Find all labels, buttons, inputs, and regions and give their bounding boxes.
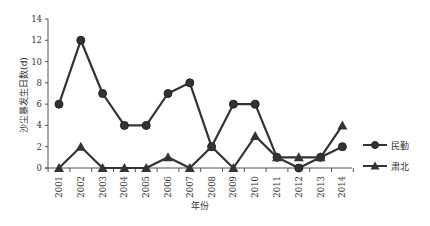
x-tick-label: 2008 (207, 176, 217, 198)
circle-marker (99, 90, 107, 98)
x-tick-label: 2005 (141, 176, 151, 198)
circle-marker (295, 164, 303, 172)
legend-label: 民勤 (391, 140, 409, 151)
circle-marker (338, 143, 346, 151)
triangle-marker (250, 131, 260, 140)
x-tick-label: 2014 (337, 176, 347, 198)
circle-marker-icon (372, 142, 379, 149)
y-tick-label: 4 (37, 120, 42, 130)
x-tick-label: 2006 (163, 176, 173, 198)
y-tick-label: 6 (37, 99, 42, 109)
x-tick-label: 2001 (54, 176, 64, 198)
line-chart: 02468101214 2001200220032004200520062007… (0, 0, 430, 226)
triangle-marker (337, 120, 347, 129)
y-tick-label: 12 (31, 35, 42, 45)
y-tick-label: 10 (31, 57, 42, 67)
y-tick-label: 2 (37, 142, 42, 152)
series-layer (54, 36, 347, 172)
series-line (59, 125, 342, 168)
series-subei (54, 120, 347, 172)
triangle-marker (163, 152, 173, 161)
x-tick-label: 2012 (294, 176, 304, 198)
y-tick-label: 14 (31, 14, 42, 24)
x-tick-label: 2003 (98, 176, 108, 198)
y-tick-label: 0 (37, 163, 42, 173)
y-tick-label: 8 (37, 78, 42, 88)
x-tick-label: 2002 (76, 176, 86, 198)
circle-marker (77, 36, 85, 44)
circle-marker (55, 100, 63, 108)
circle-marker (142, 121, 150, 129)
x-axis: 2001200220032004200520062007200820092010… (45, 168, 353, 198)
circle-marker (164, 90, 172, 98)
x-axis-title: 年份 (191, 200, 209, 211)
legend-item: 肃北 (363, 161, 409, 172)
triangle-marker (76, 142, 86, 151)
circle-marker (186, 79, 194, 87)
x-tick-label: 2007 (185, 176, 195, 198)
legend: 民勤肃北 (363, 140, 409, 172)
series-line (59, 40, 342, 168)
x-tick-label: 2009 (228, 176, 238, 198)
circle-marker (251, 100, 259, 108)
circle-marker (229, 100, 237, 108)
x-tick-label: 2011 (272, 176, 282, 198)
x-tick-label: 2004 (119, 176, 129, 198)
legend-item: 民勤 (363, 140, 409, 151)
circle-marker (120, 121, 128, 129)
x-tick-label: 2010 (250, 176, 260, 198)
legend-label: 肃北 (391, 161, 409, 172)
series-minqin (55, 36, 346, 172)
y-axis-title: 沙尘暴发生日数(d) (18, 57, 29, 133)
y-axis: 02468101214 (31, 14, 48, 173)
x-tick-label: 2013 (316, 176, 326, 198)
